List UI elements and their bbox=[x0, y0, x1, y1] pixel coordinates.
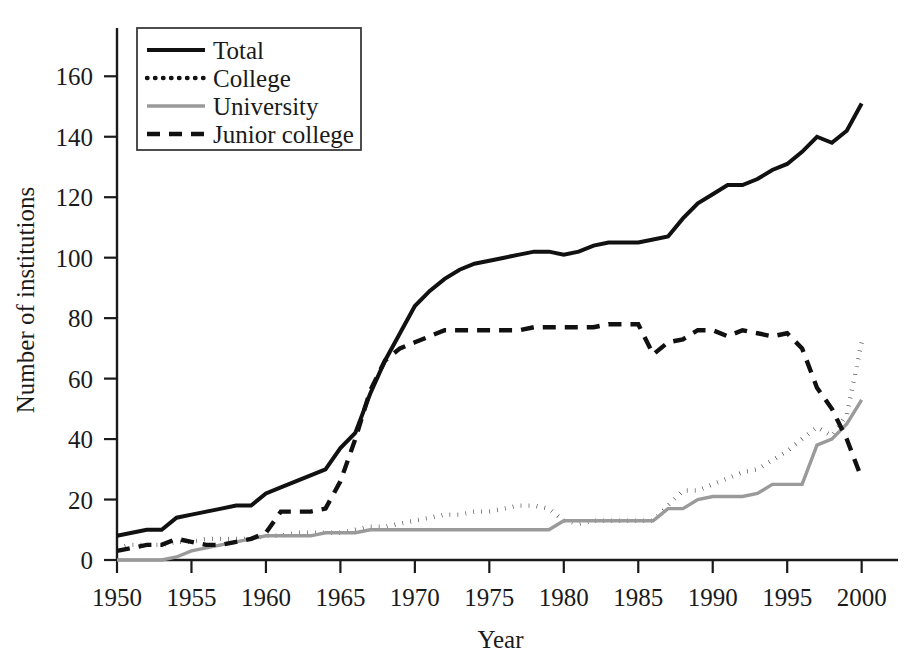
x-tick-label-1985: 1985 bbox=[613, 584, 663, 611]
x-tick-label-1950: 1950 bbox=[92, 584, 142, 611]
y-tick-label-160: 160 bbox=[56, 63, 94, 90]
x-axis-title: Year bbox=[477, 626, 524, 652]
y-tick-label-0: 0 bbox=[81, 547, 94, 574]
legend-label-junior-college: Junior college bbox=[213, 121, 354, 148]
x-tick-label-1975: 1975 bbox=[464, 584, 514, 611]
series-line-total bbox=[117, 103, 862, 535]
legend-label-college: College bbox=[213, 65, 291, 92]
x-tick-label-1960: 1960 bbox=[241, 584, 291, 611]
x-tick-label-1970: 1970 bbox=[390, 584, 440, 611]
chart-figure: TotalCollegeUniversityJunior college 020… bbox=[0, 0, 920, 652]
x-tick-label-2000: 2000 bbox=[837, 584, 887, 611]
legend-layer: TotalCollegeUniversityJunior college bbox=[137, 28, 361, 150]
x-tick-label-1995: 1995 bbox=[762, 584, 812, 611]
label-layer: 0204060801001201401601950195519601965197… bbox=[12, 63, 887, 652]
series-line-university bbox=[117, 400, 862, 560]
y-tick-label-80: 80 bbox=[68, 305, 93, 332]
legend-label-university: University bbox=[213, 93, 319, 120]
x-tick-label-1980: 1980 bbox=[539, 584, 589, 611]
series-layer bbox=[117, 103, 862, 560]
legend-label-total: Total bbox=[213, 37, 264, 64]
y-axis-title: Number of institutions bbox=[12, 187, 39, 413]
x-tick-label-1955: 1955 bbox=[166, 584, 216, 611]
series-line-junior-college bbox=[117, 324, 862, 551]
y-tick-label-20: 20 bbox=[68, 487, 93, 514]
line-chart: TotalCollegeUniversityJunior college 020… bbox=[0, 0, 920, 652]
series-line-college bbox=[117, 342, 862, 548]
y-tick-label-140: 140 bbox=[56, 124, 94, 151]
x-tick-label-1990: 1990 bbox=[688, 584, 738, 611]
y-tick-label-100: 100 bbox=[56, 245, 94, 272]
x-tick-label-1965: 1965 bbox=[315, 584, 365, 611]
y-tick-label-120: 120 bbox=[56, 184, 94, 211]
y-tick-label-40: 40 bbox=[68, 426, 93, 453]
y-tick-label-60: 60 bbox=[68, 366, 93, 393]
